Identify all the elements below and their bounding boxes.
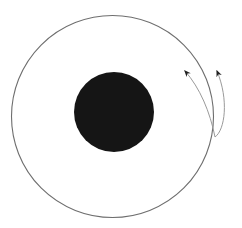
inner-disc	[74, 72, 154, 152]
arrow-right	[215, 71, 224, 137]
diagram-canvas	[0, 0, 242, 228]
arrow-left	[185, 71, 215, 137]
